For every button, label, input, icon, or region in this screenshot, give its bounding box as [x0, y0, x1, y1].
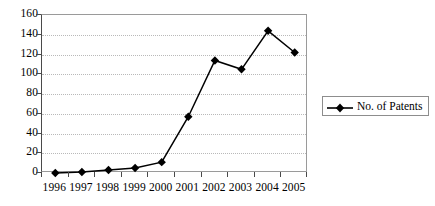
y-axis-tick-label: 80 [2, 87, 38, 98]
line-chart: 020406080100120140160 199619971998199920… [0, 0, 435, 206]
legend-marker-icon [327, 100, 353, 112]
y-axis-tick-label: 60 [2, 107, 38, 118]
y-axis-tick-label: 20 [2, 146, 38, 157]
data-point-marker [158, 158, 166, 166]
y-axis-tick-label: 40 [2, 127, 38, 138]
x-axis-tick-mark [306, 172, 307, 177]
series-canvas [42, 15, 308, 173]
x-axis-tick-mark [174, 172, 175, 177]
data-point-marker [184, 113, 192, 121]
x-axis-tick-marks [41, 172, 307, 177]
x-axis-tick-mark [201, 172, 202, 177]
data-point-marker [131, 164, 139, 172]
x-axis-tick-mark [68, 172, 69, 177]
plot-area [41, 14, 307, 172]
y-axis-tick-label: 140 [2, 28, 38, 39]
legend: No. of Patents [322, 96, 429, 116]
x-axis-tick-mark [121, 172, 122, 177]
x-axis-tick-mark [254, 172, 255, 177]
series-line [55, 31, 294, 173]
x-axis-tick-mark [227, 172, 228, 177]
y-axis-tick-label: 120 [2, 48, 38, 59]
y-axis-tick-label: 100 [2, 67, 38, 78]
x-axis-tick-mark [94, 172, 95, 177]
x-axis-tick-mark [41, 172, 42, 177]
y-axis-labels: 020406080100120140160 [0, 14, 38, 172]
data-point-marker [211, 56, 219, 64]
x-axis-tick-mark [147, 172, 148, 177]
x-axis-labels: 1996199719981999200020012002200320042005 [41, 181, 307, 197]
legend-label: No. of Patents [357, 100, 422, 112]
y-axis-tick-label: 0 [2, 166, 38, 177]
y-axis-tick-label: 160 [2, 8, 38, 19]
x-axis-tick-label: 2005 [274, 181, 314, 194]
x-axis-tick-mark [280, 172, 281, 177]
